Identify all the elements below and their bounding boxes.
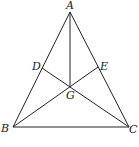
label-g: G [66,89,75,102]
label-a: A [65,0,74,12]
label-e: E [99,60,108,73]
triangle-diagram: A B C D E G [0,0,139,147]
label-c: C [129,123,138,136]
label-b: B [0,122,9,135]
segment-ab [13,12,70,127]
label-d: D [31,60,41,73]
